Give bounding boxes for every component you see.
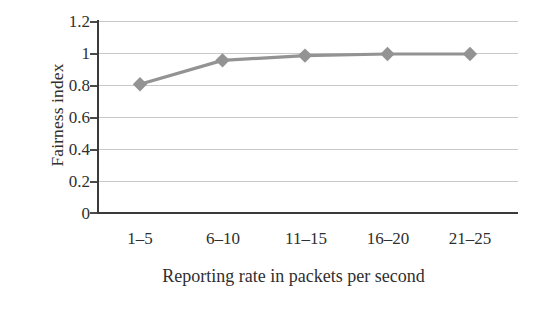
x-tick-label: 21–25 (425, 228, 515, 250)
x-axis-title: Reporting rate in packets per second (0, 264, 545, 288)
y-axis-line (97, 20, 99, 214)
x-tick-label: 11–15 (261, 228, 351, 250)
gridline (98, 21, 518, 22)
y-tick-label: 0.6 (40, 109, 90, 126)
y-tick-label: 0.2 (40, 173, 90, 190)
x-axis-line (97, 212, 518, 214)
x-tick-label: 16–20 (343, 228, 433, 250)
gridline (98, 117, 518, 118)
y-tick-label: 1.2 (40, 13, 90, 30)
x-tick-label: 1–5 (95, 228, 185, 250)
x-tick-label: 6–10 (178, 228, 268, 250)
plot-area (98, 21, 518, 213)
y-tick-label: 0 (40, 205, 90, 222)
y-tick-label: 0.4 (40, 141, 90, 158)
chart-figure: Fairness index 1.2 1 0.8 0.6 0.4 0.2 0 1… (0, 0, 545, 310)
gridline (98, 53, 518, 54)
y-tick-label: 0.8 (40, 77, 90, 94)
gridline (98, 85, 518, 86)
y-tick-label: 1 (40, 45, 90, 62)
gridline (98, 149, 518, 150)
gridline (98, 181, 518, 182)
x-axis-tick-labels: 1–5 6–10 11–15 16–20 21–25 (98, 228, 518, 254)
